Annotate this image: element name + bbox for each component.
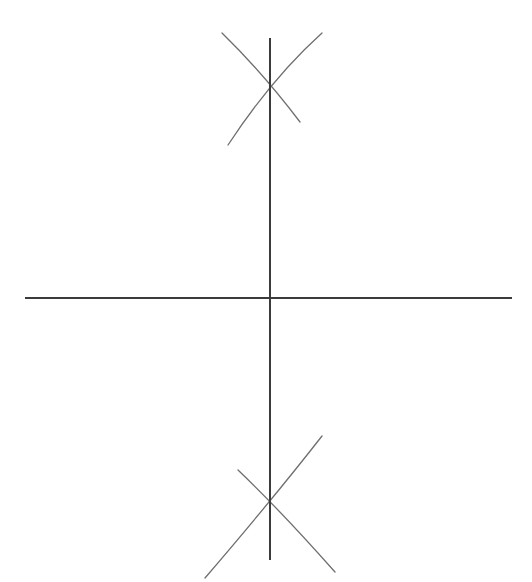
figure-canvas	[0, 0, 532, 582]
construction-diagram	[0, 0, 532, 582]
canvas-background	[0, 0, 532, 582]
